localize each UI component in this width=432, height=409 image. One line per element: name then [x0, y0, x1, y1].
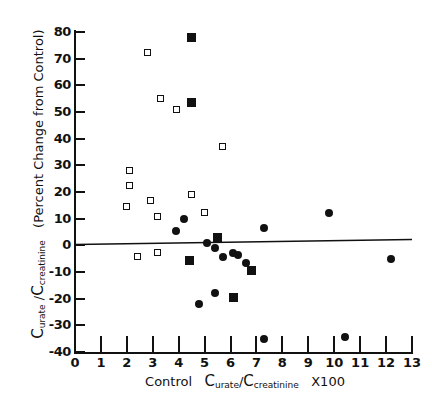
y-title-c1: C	[29, 328, 47, 338]
y-tick-30	[76, 164, 85, 166]
y-tick-10	[76, 218, 85, 220]
data-point-open-square	[219, 143, 226, 150]
regression-line	[74, 0, 413, 354]
data-point-filled-circle	[325, 209, 333, 217]
data-point-filled-square	[187, 33, 196, 42]
y-title-slash: /	[31, 296, 46, 300]
y-tick-70	[76, 58, 85, 60]
data-point-open-square	[154, 249, 161, 256]
data-point-open-square	[201, 209, 208, 216]
data-point-filled-circle	[172, 227, 180, 235]
y-title-c2: C	[29, 285, 47, 295]
data-point-filled-circle	[260, 224, 268, 232]
data-point-open-square	[147, 197, 154, 204]
x-tick-7	[255, 336, 257, 353]
data-point-open-square	[173, 106, 180, 113]
data-point-open-square	[134, 253, 141, 260]
x-tick-10	[333, 336, 335, 353]
x-tick-label-11: 11	[349, 355, 371, 370]
x-tick-5	[204, 336, 206, 353]
x-tick-label-13: 13	[401, 355, 423, 370]
data-point-open-square	[123, 203, 130, 210]
y-tick-50	[76, 111, 85, 113]
x-axis-title: Control Curate/Ccreatinine X100	[60, 372, 430, 390]
data-point-filled-square	[229, 293, 238, 302]
x-tick-12	[385, 336, 387, 353]
data-point-filled-circle	[219, 253, 227, 261]
x-tick-label-3: 3	[142, 355, 164, 370]
x-tick-3	[152, 336, 154, 353]
x-tick-2	[126, 336, 128, 353]
x-title-suffix: X100	[311, 374, 345, 389]
data-point-open-square	[144, 49, 151, 56]
x-title-c1: C	[204, 372, 214, 390]
data-point-filled-circle	[234, 251, 242, 259]
y-title-sub2: creatinine	[37, 240, 47, 285]
y-tick-20	[76, 191, 85, 193]
y-axis-title: Curate /Ccreatinine (Percent Change from…	[29, 4, 47, 364]
data-point-filled-circle	[341, 333, 349, 341]
data-point-filled-circle	[242, 259, 250, 267]
x-tick-label-1: 1	[90, 355, 112, 370]
data-point-open-square	[188, 191, 195, 198]
data-point-filled-square	[185, 256, 194, 265]
data-point-filled-circle	[211, 244, 219, 252]
y-tick-60	[76, 84, 85, 86]
data-point-filled-square	[213, 233, 222, 242]
x-tick-4	[178, 336, 180, 353]
x-tick-label-0: 0	[64, 355, 86, 370]
scatter-plot-figure: -40-30-20-1001020304050607080 0123456789…	[0, 0, 432, 409]
x-tick-8	[281, 336, 283, 353]
data-point-filled-square	[187, 98, 196, 107]
plot-area: -40-30-20-1001020304050607080 0123456789…	[0, 0, 432, 409]
x-tick-label-4: 4	[168, 355, 190, 370]
y-title-parenthetical: (Percent Change from Control)	[31, 29, 46, 227]
x-tick-label-12: 12	[375, 355, 397, 370]
x-tick-11	[359, 336, 361, 353]
data-point-filled-circle	[203, 239, 211, 247]
data-point-filled-circle	[211, 289, 219, 297]
data-point-filled-square	[247, 266, 256, 275]
data-point-open-square	[157, 95, 164, 102]
y-tick-40	[76, 138, 85, 140]
x-axis-line	[74, 352, 413, 354]
data-point-filled-circle	[387, 255, 395, 263]
x-tick-label-10: 10	[323, 355, 345, 370]
x-title-c2: C	[243, 372, 253, 390]
data-point-filled-circle	[180, 215, 188, 223]
y-tick-80	[76, 31, 85, 33]
x-tick-label-5: 5	[194, 355, 216, 370]
x-title-prefix: Control	[145, 374, 192, 389]
x-tick-13	[411, 336, 413, 353]
x-tick-9	[307, 336, 309, 353]
x-title-sub1: urate	[215, 380, 239, 390]
data-point-open-square	[126, 182, 133, 189]
x-tick-label-8: 8	[271, 355, 293, 370]
x-tick-label-9: 9	[297, 355, 319, 370]
y-tick--10	[76, 271, 85, 273]
y-title-sub1: urate	[37, 304, 47, 328]
data-point-filled-circle	[195, 300, 203, 308]
y-tick--30	[76, 324, 85, 326]
x-tick-label-7: 7	[245, 355, 267, 370]
x-title-sub2: creatinine	[254, 380, 299, 390]
y-tick--40	[76, 351, 85, 353]
data-point-filled-circle	[260, 335, 268, 343]
y-tick-0	[76, 244, 85, 246]
data-point-open-square	[154, 213, 161, 220]
x-tick-1	[100, 336, 102, 353]
y-tick--20	[76, 298, 85, 300]
x-tick-label-2: 2	[116, 355, 138, 370]
data-point-open-square	[126, 167, 133, 174]
x-tick-6	[230, 336, 232, 353]
x-tick-label-6: 6	[220, 355, 242, 370]
